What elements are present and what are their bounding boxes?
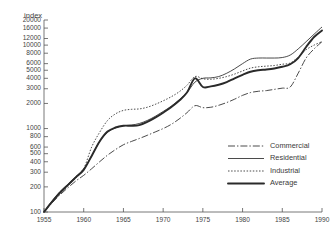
x-tick-label: 1955 <box>37 216 52 223</box>
x-tick-label: 1985 <box>275 216 290 223</box>
y-tick-label: 20000 <box>23 16 42 23</box>
x-tick-label: 1970 <box>156 216 171 223</box>
legend-label-industrial: Industrial <box>270 166 300 175</box>
y-tick-label: 400 <box>30 158 41 165</box>
y-tick-label: 2000 <box>26 99 41 106</box>
x-tick-label: 1990 <box>315 216 330 223</box>
y-tick-label: 16000 <box>23 24 42 31</box>
y-tick-label: 200 <box>30 183 41 190</box>
y-tick-label: 8000 <box>26 49 41 56</box>
y-tick-label: 10000 <box>23 41 42 48</box>
y-tick-label: 500 <box>30 149 41 156</box>
y-tick-label: 3000 <box>26 84 41 91</box>
x-tick-label: 1960 <box>76 216 91 223</box>
y-tick-label: 1000 <box>26 124 41 131</box>
x-axis-ticks: 19551960196519701975198019851990 <box>37 208 330 223</box>
legend-label-average: Average <box>270 178 297 187</box>
chart-container: index 2000016000120001000080006000500040… <box>0 0 332 244</box>
y-tick-label: 4000 <box>26 74 41 81</box>
legend-label-residential: Residential <box>270 153 307 162</box>
y-tick-label: 100 <box>30 208 41 215</box>
legend-label-commercial: Commercial <box>270 141 310 150</box>
y-tick-label: 5000 <box>26 66 41 73</box>
y-tick-label: 300 <box>30 168 41 175</box>
x-tick-label: 1980 <box>235 216 250 223</box>
line-chart: index 2000016000120001000080006000500040… <box>0 0 332 244</box>
y-tick-label: 800 <box>30 132 41 139</box>
chart-legend: CommercialResidentialIndustrialAverage <box>228 141 310 188</box>
x-tick-label: 1965 <box>116 216 131 223</box>
x-tick-label: 1975 <box>196 216 211 223</box>
